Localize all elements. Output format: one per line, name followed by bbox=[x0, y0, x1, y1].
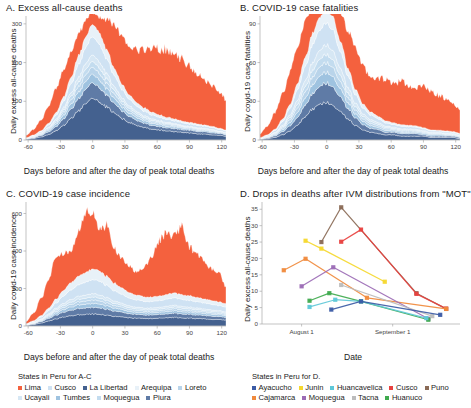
legend-ac-item-cusco[interactable]: Cusco bbox=[48, 383, 76, 393]
panel-d-chart: 05101520253035August 1September 1 bbox=[234, 200, 468, 340]
legend-item-label: Ayacucho bbox=[259, 383, 292, 393]
panel-c-title: C. COVID-19 case incidence bbox=[6, 188, 130, 199]
panel-b-chart: 0306090-60-300306090120 bbox=[234, 14, 468, 154]
legend-swatch-icon bbox=[389, 386, 393, 390]
legend-d-items: AyacuchoJuninHuancavelicaCuscoPunoCajama… bbox=[252, 383, 468, 403]
legend-item-label: Tacna bbox=[358, 393, 378, 403]
legend-swatch-icon bbox=[252, 386, 256, 390]
svg-text:120: 120 bbox=[451, 143, 462, 150]
legend-d-item-cajamarca[interactable]: Cajamarca bbox=[252, 393, 295, 403]
svg-text:-30: -30 bbox=[56, 329, 66, 336]
legend-swatch-icon bbox=[299, 386, 303, 390]
legend-swatch-icon bbox=[252, 396, 256, 400]
svg-text:0: 0 bbox=[255, 320, 259, 327]
panel-c: C. COVID-19 case incidence 0200400600-60… bbox=[0, 186, 234, 372]
svg-text:10: 10 bbox=[251, 287, 258, 294]
panel-b-ylabel: Daily covid-19 case fatalities bbox=[243, 31, 252, 132]
panel-c-chart: 0200400600-60-300306090120 bbox=[0, 200, 234, 340]
legend-item-label: La Libertad bbox=[90, 383, 128, 393]
svg-text:0: 0 bbox=[325, 143, 329, 150]
panel-a: A. Excess all-cause deaths 0100200300-60… bbox=[0, 0, 234, 186]
panel-c-xlabel: Days before and after the day of peak to… bbox=[14, 352, 224, 362]
svg-text:-30: -30 bbox=[56, 143, 66, 150]
svg-text:30: 30 bbox=[355, 143, 362, 150]
svg-text:90: 90 bbox=[420, 143, 427, 150]
legend-item-label: Junin bbox=[305, 383, 323, 393]
legend-ac-item-piura[interactable]: Piura bbox=[146, 393, 170, 403]
svg-text:60: 60 bbox=[154, 329, 161, 336]
svg-text:120: 120 bbox=[217, 143, 228, 150]
legend-item-label: Piura bbox=[153, 393, 171, 403]
legend-ac-items: LimaCuscoLa LibertadArequipaLoretoUcayal… bbox=[18, 383, 234, 403]
svg-text:-60: -60 bbox=[24, 329, 34, 336]
panel-d-ylabel: Daily excess all-cause deaths bbox=[243, 217, 252, 322]
legend-item-label: Cajamarca bbox=[259, 393, 296, 403]
legend-swatch-icon bbox=[97, 396, 101, 400]
svg-text:90: 90 bbox=[186, 143, 193, 150]
svg-text:60: 60 bbox=[388, 143, 395, 150]
svg-text:120: 120 bbox=[217, 329, 228, 336]
panel-a-xlabel: Days before and after the day of peak to… bbox=[14, 166, 224, 176]
legend-d-title: States in Peru for D. bbox=[252, 372, 468, 381]
svg-text:90: 90 bbox=[186, 329, 193, 336]
legend-ac-item-arequipa[interactable]: Arequipa bbox=[135, 383, 172, 393]
legend-swatch-icon bbox=[352, 396, 356, 400]
legend-d-item-cusco[interactable]: Cusco bbox=[389, 383, 417, 393]
legend-ac-item-loreto[interactable]: Loreto bbox=[178, 383, 206, 393]
svg-text:90: 90 bbox=[249, 20, 256, 27]
svg-text:-60: -60 bbox=[24, 143, 34, 150]
legend-panel-d: States in Peru for D. AyacuchoJuninHuanc… bbox=[252, 372, 468, 403]
legend-item-label: Cusco bbox=[396, 383, 418, 393]
svg-text:15: 15 bbox=[251, 271, 258, 278]
legend-swatch-icon bbox=[330, 386, 334, 390]
panel-b-xlabel: Days before and after the day of peak to… bbox=[248, 166, 458, 176]
legend-d-item-moquegua[interactable]: Moquegua bbox=[302, 393, 344, 403]
legend-swatch-icon bbox=[302, 396, 306, 400]
legend-d-item-junin[interactable]: Junin bbox=[299, 383, 324, 393]
legend-item-label: Ucayali bbox=[25, 393, 50, 403]
panel-d: D. Drops in deaths after IVM distributio… bbox=[234, 186, 468, 372]
legend-d-item-huanuco[interactable]: Huanuco bbox=[385, 393, 422, 403]
panel-a-ylabel: Daily excess all-cause deaths bbox=[9, 29, 18, 134]
legend-item-label: Moquegua bbox=[104, 393, 140, 403]
legend-d-item-ayacucho[interactable]: Ayacucho bbox=[252, 383, 292, 393]
legend-item-label: Arequipa bbox=[141, 383, 171, 393]
svg-text:35: 35 bbox=[251, 205, 258, 212]
svg-text:25: 25 bbox=[251, 238, 258, 245]
panel-a-title: A. Excess all-cause deaths bbox=[6, 2, 123, 13]
svg-text:-60: -60 bbox=[258, 143, 268, 150]
legend-swatch-icon bbox=[385, 396, 389, 400]
svg-text:30: 30 bbox=[251, 222, 258, 229]
legend-swatch-icon bbox=[56, 396, 60, 400]
legend-swatch-icon bbox=[146, 396, 150, 400]
panel-b: B. COVID-19 case fatalities 0306090-60-3… bbox=[234, 0, 468, 186]
svg-text:0: 0 bbox=[91, 329, 95, 336]
svg-text:0: 0 bbox=[253, 136, 257, 143]
legend-item-label: Puno bbox=[431, 383, 449, 393]
svg-text:-30: -30 bbox=[290, 143, 300, 150]
legend-d-item-huancavelica[interactable]: Huancavelica bbox=[330, 383, 382, 393]
panel-d-title: D. Drops in deaths after IVM distributio… bbox=[240, 188, 471, 199]
panel-c-ylabel: Daily covid-19 case incidence bbox=[9, 215, 18, 320]
svg-text:0: 0 bbox=[19, 136, 23, 143]
legend-item-label: Cusco bbox=[54, 383, 76, 393]
legend-ac-item-lima[interactable]: Lima bbox=[18, 383, 41, 393]
svg-text:30: 30 bbox=[121, 143, 128, 150]
legend-swatch-icon bbox=[135, 386, 139, 390]
legend-ac-item-la-libertad[interactable]: La Libertad bbox=[83, 383, 128, 393]
legend-panels-abc: States in Peru for A-C LimaCuscoLa Liber… bbox=[18, 372, 234, 403]
svg-text:20: 20 bbox=[251, 255, 258, 262]
panel-d-plot: 05101520253035August 1September 1 bbox=[234, 200, 468, 340]
legend-item-label: Huancavelica bbox=[337, 383, 383, 393]
legend-swatch-icon bbox=[48, 386, 52, 390]
panel-d-xlabel: Date bbox=[248, 352, 458, 362]
legend-ac-item-ucayali[interactable]: Ucayali bbox=[18, 393, 49, 403]
legend-d-item-tacna[interactable]: Tacna bbox=[352, 393, 379, 403]
legend-swatch-icon bbox=[83, 386, 87, 390]
legend-ac-item-moquegua[interactable]: Moquegua bbox=[97, 393, 139, 403]
legend-ac-title: States in Peru for A-C bbox=[18, 372, 234, 381]
svg-text:5: 5 bbox=[255, 304, 259, 311]
legend-d-item-puno[interactable]: Puno bbox=[425, 383, 449, 393]
legend-ac-item-tumbes[interactable]: Tumbes bbox=[56, 393, 90, 403]
